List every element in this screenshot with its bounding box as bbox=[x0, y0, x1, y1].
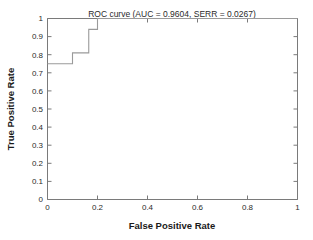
y-tick-label: 0.9 bbox=[32, 32, 44, 41]
x-tick-label: 1 bbox=[295, 203, 300, 212]
y-tick-label: 0.6 bbox=[32, 87, 44, 96]
chart-canvas: ROC curve (AUC = 0.9604, SERR = 0.0267) bbox=[0, 0, 313, 240]
y-tick-label: 1 bbox=[39, 14, 44, 23]
x-tick-label: 0 bbox=[45, 203, 50, 212]
y-tick-label: 0 bbox=[39, 195, 44, 204]
y-tick-label: 0.7 bbox=[32, 69, 44, 78]
x-tick-label: 0.8 bbox=[242, 203, 254, 212]
x-axis-tick-labels: 0 0.2 0.4 0.6 0.8 1 bbox=[45, 203, 300, 212]
x-axis-title: False Positive Rate bbox=[129, 220, 216, 231]
y-tick-label: 0.2 bbox=[32, 159, 44, 168]
y-tick-label: 0.1 bbox=[32, 177, 44, 186]
y-tick-label: 0.5 bbox=[32, 105, 44, 114]
roc-curve-line bbox=[48, 19, 298, 64]
plot-frame bbox=[48, 19, 298, 200]
x-tick-label: 0.6 bbox=[192, 203, 204, 212]
y-axis-ticks bbox=[48, 19, 298, 200]
y-tick-label: 0.4 bbox=[32, 123, 44, 132]
roc-chart-figure: ROC curve (AUC = 0.9604, SERR = 0.0267) bbox=[0, 0, 313, 240]
y-axis-tick-labels: 0 0.1 0.2 0.3 0.4 0.5 0.6 0.7 0.8 0.9 1 bbox=[32, 14, 44, 204]
y-tick-label: 0.8 bbox=[32, 51, 44, 60]
x-tick-label: 0.4 bbox=[142, 203, 154, 212]
y-axis-title: True Positive Rate bbox=[5, 68, 16, 150]
chart-title: ROC curve (AUC = 0.9604, SERR = 0.0267) bbox=[88, 9, 256, 19]
x-axis-ticks bbox=[48, 19, 298, 200]
y-tick-label: 0.3 bbox=[32, 141, 44, 150]
x-tick-label: 0.2 bbox=[92, 203, 104, 212]
